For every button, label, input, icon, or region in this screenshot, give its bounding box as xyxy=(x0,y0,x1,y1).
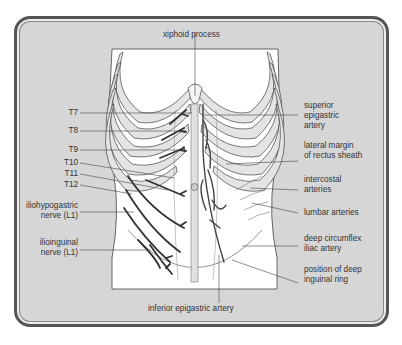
label-superior-epigastric-artery: superior epigastric artery xyxy=(304,101,339,131)
label-t11: T11 xyxy=(40,169,78,179)
label-lumbar-arteries: lumbar arteries xyxy=(304,208,359,218)
label-ilioinguinal-nerve: ilioinguinal nerve (L1) xyxy=(10,238,78,258)
label-t7: T7 xyxy=(40,108,78,118)
label-t10: T10 xyxy=(40,158,78,168)
label-deep-circumflex-iliac-artery: deep circumflex iliac artery xyxy=(304,234,361,254)
label-t9: T9 xyxy=(40,145,78,155)
label-lateral-margin-rectus-sheath: lateral margin of rectus sheath xyxy=(304,141,362,161)
label-deep-inguinal-ring: position of deep inguinal ring xyxy=(304,265,362,285)
label-inferior-epigastric-artery: inferior epigastric artery xyxy=(148,304,234,314)
label-iliohypogastric-nerve: iliohypogastric nerve (L1) xyxy=(10,201,78,221)
umbilicus xyxy=(191,184,198,191)
label-xiphoid-process: xiphoid process xyxy=(163,30,220,40)
label-t8: T8 xyxy=(40,126,78,136)
label-t12: T12 xyxy=(40,180,78,190)
label-intercostal-arteries: intercostal arteries xyxy=(304,175,341,195)
